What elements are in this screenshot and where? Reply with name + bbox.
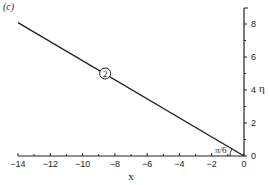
y-tick-label: 0 [251,151,256,161]
circled-label: 2 [103,69,108,79]
x-tick-label: −8 [110,159,120,169]
y-tick-label: 6 [251,52,256,62]
x-tick-label: −6 [142,159,152,169]
x-tick-label: 0 [241,159,246,169]
y-axis-label: η [259,82,265,94]
angle-arc [230,149,232,156]
x-tick-label: −4 [174,159,184,169]
x-tick-label: −14 [10,159,25,169]
chart: (c)−14−12−10−8−6−4−20x02468η2π/6 [0,0,270,185]
x-tick-label: −10 [75,159,90,169]
panel-label: (c) [3,1,15,13]
x-tick-label: −2 [207,159,217,169]
y-tick-label: 2 [251,118,256,128]
x-tick-label: −12 [43,159,58,169]
x-axis-label: x [128,170,134,182]
y-tick-label: 8 [251,19,256,29]
y-tick-label: 4 [251,85,256,95]
angle-label: π/6 [215,145,227,155]
data-line [18,23,244,156]
